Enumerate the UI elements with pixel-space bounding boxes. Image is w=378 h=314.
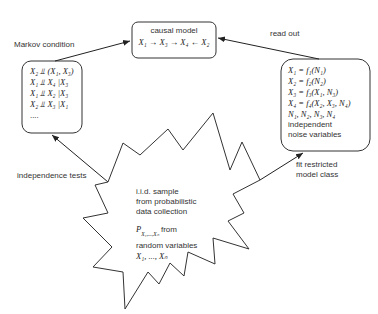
equation-line: X₃ = f₃(X₁, N₃) xyxy=(288,87,351,98)
star-line: data collection xyxy=(136,207,197,217)
fit-model-label-line1: fit restricted xyxy=(296,160,338,170)
markov-box-content: X₂ ⫫ (X₁, X₃) X₁ ⫫ X₄ |X₃ X₁ ⫫ X₂ |X₃ X₂… xyxy=(30,66,74,121)
distribution-suffix: from xyxy=(159,225,177,234)
star-line: from probabilistic xyxy=(136,197,197,207)
independence-line: X₁ ⫫ X₂ |X₃ xyxy=(30,88,74,99)
arrow-readout-to-causal xyxy=(218,38,319,59)
data-star-content: i.i.d. sample from probabilistic data co… xyxy=(136,187,197,262)
equation-line: X₂ = f₂(N₂) xyxy=(288,76,351,87)
distribution-subscript: X₁,...,Xₙ xyxy=(141,231,159,237)
independence-line: X₂ ⫫ X₃ |X₁ xyxy=(30,99,74,110)
causal-model-title: causal model xyxy=(132,26,216,36)
distribution-line: PX₁,...,Xₙ from xyxy=(136,218,197,240)
causal-model-content: causal model X₁ → X₃ → X₄ ← X₂ xyxy=(132,26,216,48)
independence-line: X₂ ⫫ (X₁, X₃) xyxy=(30,66,74,77)
fit-model-label-line2: model class xyxy=(296,170,338,180)
markov-condition-label: Markov condition xyxy=(14,40,74,50)
independence-line: X₁ ⫫ X₄ |X₃ xyxy=(30,77,74,88)
star-line: random variables xyxy=(136,241,197,251)
read-out-label: read out xyxy=(270,29,299,39)
noise-note-line: noise variables xyxy=(288,130,351,140)
causal-model-graph: X₁ → X₃ → X₄ ← X₂ xyxy=(132,37,216,48)
star-variables: X₁, ..., Xₙ xyxy=(136,251,197,262)
equation-line: X₄ = f₄(X₂, X₃, N₄) xyxy=(288,98,351,109)
independence-tests-label: independence tests xyxy=(17,171,86,181)
noise-variables-line: N₁, N₂, N₃, N₄ xyxy=(288,109,351,120)
star-line: i.i.d. sample xyxy=(136,187,197,197)
ellipsis: .... xyxy=(30,110,74,121)
noise-note-line: independent xyxy=(288,120,351,130)
equations-box-content: X₁ = f₁(N₁) X₂ = f₂(N₂) X₃ = f₃(X₁, N₃) … xyxy=(288,65,351,140)
fit-model-label: fit restricted model class xyxy=(296,160,338,180)
equation-line: X₁ = f₁(N₁) xyxy=(288,65,351,76)
